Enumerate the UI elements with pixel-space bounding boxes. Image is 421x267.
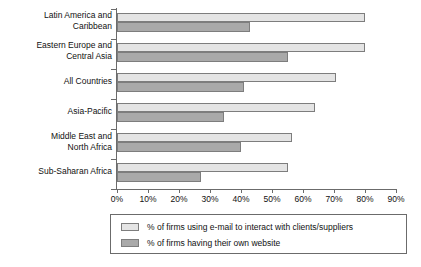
x-axis-tick [148, 189, 149, 193]
category-label: Middle East and North Africa [0, 131, 112, 152]
bar-email-all-countries [117, 73, 336, 82]
x-axis-tick [365, 189, 366, 193]
y-axis-tick [111, 159, 116, 160]
bar-website-asia-pacific [117, 112, 224, 122]
bar-email-eastern-europe [117, 43, 365, 52]
x-axis-tick [396, 189, 397, 193]
bar-website-middle-east [117, 142, 241, 152]
chart-legend: % of firms using e-mail to interact with… [110, 214, 407, 254]
legend-swatch-email-icon [121, 223, 139, 231]
legend-item-email: % of firms using e-mail to interact with… [121, 220, 406, 234]
bar-email-sub-saharan-africa [117, 163, 288, 172]
category-label: Eastern Europe and Central Asia [0, 40, 112, 61]
y-axis-tick [111, 189, 116, 190]
bar-email-asia-pacific [117, 103, 315, 112]
x-axis-tick-label: 90% [376, 194, 416, 205]
y-axis-tick [111, 129, 116, 130]
bar-email-middle-east [117, 133, 292, 142]
category-label: Latin America and Caribbean [0, 10, 112, 31]
x-axis-tick [210, 189, 211, 193]
bar-website-all-countries [117, 82, 244, 92]
y-axis-tick [111, 69, 116, 70]
category-label: All Countries [0, 76, 112, 87]
plot-area [117, 8, 396, 189]
x-axis-tick [241, 189, 242, 193]
bar-website-eastern-europe [117, 52, 288, 62]
category-label: Sub-Saharan Africa [0, 166, 112, 177]
x-axis-tick [117, 189, 118, 193]
x-axis-tick [303, 189, 304, 193]
legend-label-email: % of firms using e-mail to interact with… [147, 222, 353, 232]
x-axis-tick [334, 189, 335, 193]
y-axis-tick [111, 99, 116, 100]
y-axis-tick [111, 9, 116, 10]
bar-chart: Latin America and Caribbean Eastern Euro… [0, 0, 421, 267]
x-axis-tick [179, 189, 180, 193]
x-axis-line [116, 189, 397, 190]
bar-website-latin-america [117, 22, 250, 32]
bar-website-sub-saharan-africa [117, 172, 201, 182]
bar-email-latin-america [117, 13, 365, 22]
category-label: Asia-Pacific [0, 106, 112, 117]
x-axis-tick [272, 189, 273, 193]
legend-item-website: % of firms having their own website [121, 236, 406, 250]
legend-swatch-website-icon [121, 239, 139, 247]
legend-label-website: % of firms having their own website [147, 238, 280, 248]
category-axis-labels: Latin America and Caribbean Eastern Euro… [0, 8, 112, 189]
y-axis-tick [111, 39, 116, 40]
